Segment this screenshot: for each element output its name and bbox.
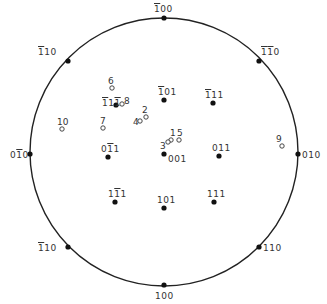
pole-label: 011: [212, 144, 231, 153]
pole-label: 110: [38, 48, 57, 57]
pole-label: 110: [38, 244, 57, 253]
pole-label: 110: [261, 48, 280, 57]
data-point-label: 3: [160, 142, 166, 151]
pole-dot: [211, 199, 216, 204]
pole-dot: [256, 58, 261, 63]
data-point-marker: [101, 126, 105, 130]
projection-canvas: [0, 0, 327, 304]
pole-label: 010: [302, 151, 321, 160]
pole-label: 111: [205, 91, 224, 100]
pole-label: 111: [102, 99, 121, 108]
pole-label: 101: [157, 196, 176, 205]
pole-dot: [161, 97, 166, 102]
pole-dot: [161, 151, 166, 156]
data-point-marker: [177, 138, 181, 142]
data-point-marker: [144, 115, 148, 119]
data-point-label: 1: [170, 129, 176, 138]
pole-dot: [210, 100, 215, 105]
data-point-label: 2: [142, 106, 148, 115]
pole-dot: [161, 205, 166, 210]
pole-dot: [256, 244, 261, 249]
stereographic-projection: 1001101100100101101101001111011110110010…: [0, 0, 327, 304]
pole-dot: [161, 282, 166, 287]
pole-label: 001: [168, 155, 187, 164]
pole-dot: [216, 153, 221, 158]
pole-label: 011: [101, 145, 120, 154]
data-point-marker: [110, 86, 114, 90]
data-point-label: 7: [100, 117, 106, 126]
data-point-label: 6: [108, 77, 114, 86]
pole-dot: [105, 154, 110, 159]
data-point-label: 9: [276, 135, 282, 144]
pole-label: 111: [207, 190, 226, 199]
pole-dot: [161, 15, 166, 20]
data-point-label: 8: [124, 97, 130, 106]
data-point-marker: [280, 144, 284, 148]
data-point-marker: [60, 127, 64, 131]
data-point-marker: [166, 140, 170, 144]
data-point-label: 5: [177, 129, 183, 138]
pole-label: 010: [10, 151, 29, 160]
pole-dot: [112, 199, 117, 204]
pole-label: 100: [154, 5, 173, 14]
pole-label: 101: [158, 88, 177, 97]
pole-label: 110: [263, 244, 282, 253]
pole-dot: [295, 151, 300, 156]
pole-dot: [65, 244, 70, 249]
pole-label: 111: [108, 190, 127, 199]
pole-label: 100: [155, 292, 174, 301]
data-point-label: 10: [57, 118, 68, 127]
data-point-label: 4: [133, 118, 139, 127]
pole-dot: [65, 58, 70, 63]
